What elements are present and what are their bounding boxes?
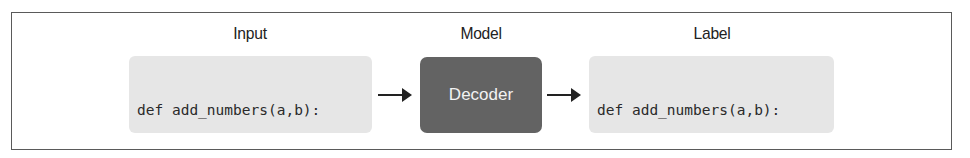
arrow-right-icon <box>378 94 410 96</box>
arrow-right-icon <box>547 94 579 96</box>
label-code-block: def add_numbers(a,b): "add two numbers" … <box>589 56 834 133</box>
input-heading: Input <box>213 24 287 44</box>
model-heading: Model <box>444 24 518 44</box>
label-heading: Label <box>675 24 749 44</box>
input-code-line-1: def add_numbers(a,b): <box>137 101 372 120</box>
decoder-label: Decoder <box>449 85 513 105</box>
input-code-block: def add_numbers(a,b): "add two numbers" … <box>129 56 372 133</box>
label-code-line-2: "add two numbers" <box>597 157 834 158</box>
input-code-line-2: "add two numbers" <box>137 157 372 158</box>
decoder-block: Decoder <box>420 57 542 133</box>
label-code-line-1: def add_numbers(a,b): <box>597 101 834 120</box>
